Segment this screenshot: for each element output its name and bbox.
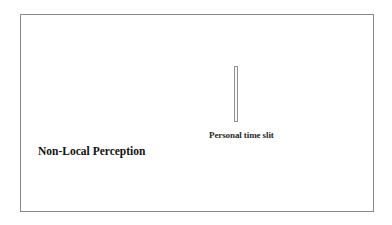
personal-time-slit-shape [234, 66, 238, 122]
diagram-frame [20, 14, 374, 212]
diagram-title: Non-Local Perception [38, 145, 145, 157]
slit-label: Personal time slit [209, 130, 274, 140]
